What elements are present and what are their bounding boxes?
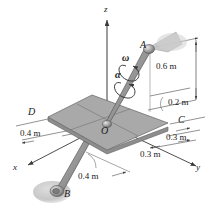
point-label-d: D xyxy=(28,107,35,117)
alpha-label: α xyxy=(115,70,121,80)
point-label-b: B xyxy=(64,189,70,199)
point-label-o: O xyxy=(101,126,108,136)
proj-arc-02 xyxy=(160,97,163,111)
axis-label-y: y xyxy=(196,163,200,172)
dimension-rod-b: 0.4 m xyxy=(78,172,99,181)
axis-label-z: z xyxy=(104,5,108,14)
dimension-height-a: 0.6 m xyxy=(156,62,177,71)
mechanics-figure: z x y A B C D O ω α 0.6 m 0.2 m 0.4 m 0.… xyxy=(0,0,220,222)
dim-arrow-03a xyxy=(176,128,190,131)
axis-label-x: x xyxy=(13,163,17,172)
point-label-a: A xyxy=(140,40,146,50)
dim-arrow-04l xyxy=(22,141,34,143)
omega-label: ω xyxy=(122,53,129,63)
ext-line-d xyxy=(16,119,48,126)
socket-inner-b xyxy=(53,188,60,193)
point-label-c: C xyxy=(178,115,185,125)
sweep-shadow-a xyxy=(157,33,187,51)
dim-arrow-04b xyxy=(112,172,126,176)
dimension-offset-a: 0.2 m xyxy=(168,98,189,107)
dimension-plate-right-near: 0.3 m xyxy=(166,133,187,142)
ext-line-02b xyxy=(150,88,190,96)
ext-line-04b xyxy=(86,152,130,172)
dimension-plate-right-far: 0.3 m xyxy=(140,150,161,159)
rod-ob-body xyxy=(56,141,89,193)
dimension-plate-left: 0.4 m xyxy=(20,129,41,138)
ext-line-c xyxy=(170,117,205,124)
